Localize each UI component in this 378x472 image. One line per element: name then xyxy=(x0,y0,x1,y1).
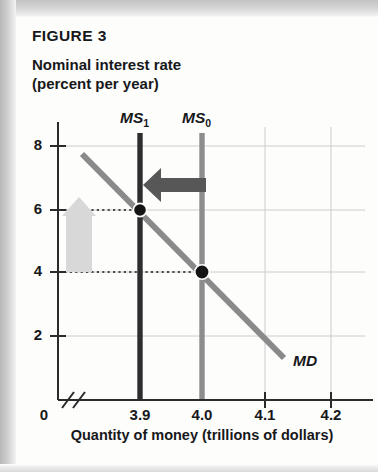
ms1-label-text: MS xyxy=(120,109,143,126)
figure-card: FIGURE 3 Nominal interest rate (percent … xyxy=(16,17,378,464)
new-equilibrium-dot xyxy=(133,203,146,216)
ms0-label-text: MS xyxy=(182,109,205,126)
md-label: MD xyxy=(293,352,317,370)
original-equilibrium-dot xyxy=(195,265,209,279)
x-tick-label-3-9: 3.9 xyxy=(117,406,163,423)
chart-svg xyxy=(16,17,378,464)
supply-shift-arrow xyxy=(143,168,206,202)
figure-screenshot: FIGURE 3 Nominal interest rate (percent … xyxy=(0,0,378,472)
page-edge-bottom xyxy=(0,464,378,472)
y-tick-label-2: 2 xyxy=(18,326,42,343)
x-axis-title: Quantity of money (trillions of dollars) xyxy=(32,427,372,443)
interest-rate-rise-arrow xyxy=(62,197,96,272)
x-tick-label-4-1: 4.1 xyxy=(242,406,288,423)
page-edge-left xyxy=(0,0,16,472)
y-tick-label-8: 8 xyxy=(18,136,42,153)
ms1-label-sub: 1 xyxy=(143,117,149,129)
y-tick-label-4: 4 xyxy=(18,262,42,279)
x-tick-label-4-0: 4.0 xyxy=(179,406,225,423)
ms0-label-sub: 0 xyxy=(205,117,211,129)
x-tick-label-0: 0 xyxy=(21,406,67,423)
ms0-label: MS0 xyxy=(182,109,211,129)
y-tick-label-6: 6 xyxy=(18,200,42,217)
x-tick-label-4-2: 4.2 xyxy=(308,406,354,423)
page-edge-top xyxy=(0,0,378,17)
ms1-label: MS1 xyxy=(120,109,149,129)
chart-plot-area: 8 6 4 2 0 3.9 4.0 4.1 4.2 MS1 MS0 MD xyxy=(16,17,378,464)
